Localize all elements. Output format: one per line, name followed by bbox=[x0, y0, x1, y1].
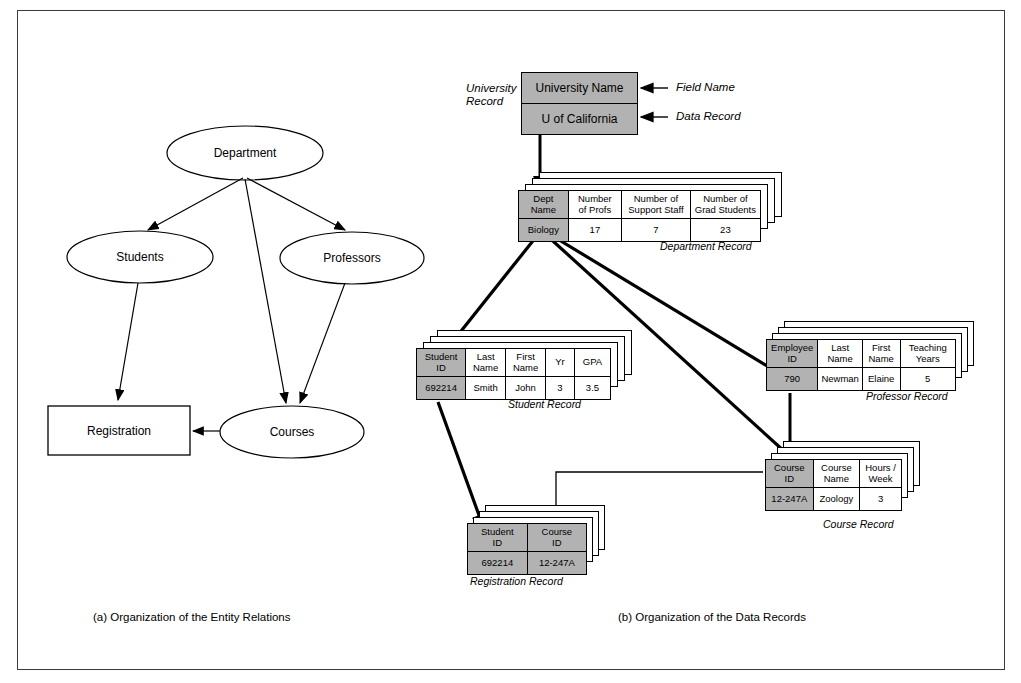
er-label-registration: Registration bbox=[48, 418, 190, 444]
professor-value-employee-id: 790 bbox=[767, 368, 818, 391]
table-row: 12-247A Zoology 3 bbox=[766, 488, 902, 511]
link-student-registration bbox=[438, 402, 480, 518]
department-record-table: Dept Name Number of Profs Number of Supp… bbox=[518, 190, 761, 242]
student-value-last-name: Smith bbox=[466, 377, 506, 400]
professor-value-last-name: Newman bbox=[818, 368, 862, 391]
course-header-course-name: Course Name bbox=[813, 460, 860, 488]
university-data-record-cell: U of California bbox=[522, 104, 638, 135]
student-record-table: Student ID Last Name First Name Yr GPA 6… bbox=[416, 348, 611, 400]
table-row: 692214 Smith John 3 3.5 bbox=[417, 377, 611, 400]
er-edge-department-professors bbox=[247, 178, 345, 230]
link-department-student bbox=[450, 232, 540, 345]
course-value-course-name: Zoology bbox=[813, 488, 860, 511]
professor-record-label: Professor Record bbox=[866, 390, 948, 402]
university-record-annotation: University Record bbox=[466, 82, 516, 108]
course-header-course-id: Course ID bbox=[766, 460, 814, 488]
table-row: Employee ID Last Name First Name Teachin… bbox=[767, 340, 956, 368]
department-value-grad-students: 23 bbox=[690, 219, 760, 242]
professor-header-employee-id: Employee ID bbox=[767, 340, 818, 368]
registration-record-table: Student ID Course ID 692214 12-247A bbox=[467, 523, 587, 575]
caption-b: (b) Organization of the Data Records bbox=[618, 611, 806, 623]
data-record-annotation: Data Record bbox=[676, 110, 741, 123]
table-row: Course ID Course Name Hours / Week bbox=[766, 460, 902, 488]
student-header-last-name: Last Name bbox=[466, 349, 506, 377]
student-value-yr: 3 bbox=[546, 377, 575, 400]
department-header-dept-name: Dept Name bbox=[519, 191, 569, 219]
student-value-gpa: 3.5 bbox=[574, 377, 610, 400]
figure-canvas: Department Students Professors Courses R… bbox=[0, 0, 1021, 683]
department-header-number-of-profs: Number of Profs bbox=[568, 191, 621, 219]
er-label-department: Department bbox=[167, 140, 323, 166]
table-row: 790 Newman Elaine 5 bbox=[767, 368, 956, 391]
er-edge-department-students bbox=[148, 178, 243, 230]
university-record-table: University Name U of California bbox=[521, 72, 638, 135]
student-value-student-id: 692214 bbox=[417, 377, 466, 400]
registration-value-student-id: 692214 bbox=[468, 552, 528, 575]
department-header-grad-students: Number of Grad Students bbox=[690, 191, 760, 219]
link-course-registration bbox=[556, 472, 763, 508]
professor-header-last-name: Last Name bbox=[818, 340, 862, 368]
professor-header-first-name: First Name bbox=[862, 340, 900, 368]
student-value-first-name: John bbox=[506, 377, 546, 400]
table-row: Dept Name Number of Profs Number of Supp… bbox=[519, 191, 761, 219]
professor-value-teaching-years: 5 bbox=[900, 368, 955, 391]
table-row: Student ID Last Name First Name Yr GPA bbox=[417, 349, 611, 377]
er-edge-department-courses bbox=[245, 179, 286, 403]
registration-value-course-id: 12-247A bbox=[527, 552, 586, 575]
department-header-support-staff: Number of Support Staff bbox=[622, 191, 691, 219]
course-value-hours-week: 3 bbox=[860, 488, 902, 511]
professor-record-table: Employee ID Last Name First Name Teachin… bbox=[766, 339, 956, 391]
professor-value-first-name: Elaine bbox=[862, 368, 900, 391]
registration-header-student-id: Student ID bbox=[468, 524, 528, 552]
course-value-course-id: 12-247A bbox=[766, 488, 814, 511]
er-edge-professors-courses bbox=[300, 283, 345, 403]
table-row: 692214 12-247A bbox=[468, 552, 587, 575]
course-header-hours-week: Hours / Week bbox=[860, 460, 902, 488]
professor-header-teaching-years: Teaching Years bbox=[900, 340, 955, 368]
table-row: Biology 17 7 23 bbox=[519, 219, 761, 242]
student-header-yr: Yr bbox=[546, 349, 575, 377]
student-header-student-id: Student ID bbox=[417, 349, 466, 377]
registration-record-label: Registration Record bbox=[470, 575, 563, 587]
department-value-profs: 17 bbox=[568, 219, 621, 242]
student-header-gpa: GPA bbox=[574, 349, 610, 377]
er-label-courses: Courses bbox=[220, 419, 364, 445]
er-edge-students-registration bbox=[118, 283, 138, 400]
table-row: Student ID Course ID bbox=[468, 524, 587, 552]
registration-header-course-id: Course ID bbox=[527, 524, 586, 552]
er-label-students: Students bbox=[67, 244, 213, 270]
student-header-first-name: First Name bbox=[506, 349, 546, 377]
department-record-label: Department Record bbox=[660, 240, 752, 252]
student-record-label: Student Record bbox=[508, 398, 581, 410]
department-value-dept-name: Biology bbox=[519, 219, 569, 242]
caption-a: (a) Organization of the Entity Relations bbox=[93, 611, 291, 623]
course-record-table: Course ID Course Name Hours / Week 12-24… bbox=[765, 459, 902, 511]
field-name-annotation: Field Name bbox=[676, 81, 735, 94]
table-row: University Name bbox=[522, 73, 638, 104]
department-value-support-staff: 7 bbox=[622, 219, 691, 242]
university-field-name-cell: University Name bbox=[522, 73, 638, 104]
table-row: U of California bbox=[522, 104, 638, 135]
er-label-professors: Professors bbox=[280, 245, 424, 271]
course-record-label: Course Record bbox=[823, 518, 894, 530]
